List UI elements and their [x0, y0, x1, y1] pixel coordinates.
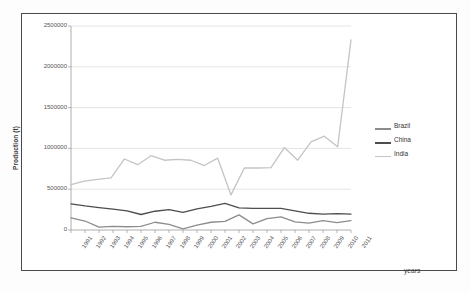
y-tick-label: 500000: [18, 185, 67, 191]
y-tick-label: 2500000: [18, 22, 67, 28]
series-line-china: [71, 203, 351, 214]
series-line-brazil: [71, 215, 351, 229]
series-line-india: [71, 40, 351, 195]
legend-label-china: China: [394, 136, 411, 143]
line-chart-plot: [21, 13, 457, 271]
legend-label-brazil: Brazil: [394, 122, 410, 129]
y-axis-title: Production (t): [12, 126, 19, 170]
chart-figure: 0500000100000015000002000000250000019911…: [0, 0, 470, 292]
legend-swatch-india: [375, 156, 391, 157]
legend-label-india: India: [394, 150, 408, 157]
y-tick-label: 0: [18, 226, 67, 232]
y-tick-label: 2000000: [18, 63, 67, 69]
y-tick-label: 1000000: [18, 144, 67, 150]
x-axis-title: years: [404, 267, 420, 274]
legend-swatch-china: [375, 142, 391, 144]
legend-swatch-brazil: [375, 128, 391, 130]
y-tick-label: 1500000: [18, 104, 67, 110]
